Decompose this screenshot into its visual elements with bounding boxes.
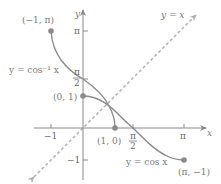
x-tick-label-neg1: −1 [44,131,57,141]
graph-canvas: y x π π 2 −1 −1 π 2 π (−1, π) (0, 1) (1,… [0,0,221,184]
y-tick-label-neg1: −1 [67,155,80,165]
point-pi-neg1 [181,157,187,163]
x-axis-label: x [207,128,212,138]
point-label-0-1: (0, 1) [53,92,77,102]
point-label-neg1-pi: (−1, π) [22,15,54,25]
line-label-identity: y = x [160,10,184,20]
x-tick-label-pi: π [180,131,186,141]
point-0-1 [80,93,86,99]
x-tick-label-pi-half-num: π [130,131,136,141]
y-tick-label-pi: π [74,26,80,36]
curve-label-arccos: y = cos⁻¹ x [8,65,59,75]
point-label-1-0: (1, 0) [97,136,121,146]
point-neg1-pi [48,28,54,34]
y-tick-label-pi-half-num: π [74,67,80,77]
curve-label-cos: y = cos x [125,157,167,167]
y-tick-label-pi-half-den: 2 [74,78,80,88]
point-label-pi-neg1: (π, −1) [178,167,210,177]
point-1-0 [112,125,118,131]
x-tick-label-pi-half-den: 2 [130,141,136,151]
y-axis-label: y [74,9,81,19]
